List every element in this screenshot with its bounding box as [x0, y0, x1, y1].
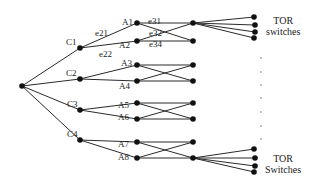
label-a5: A5 [118, 101, 129, 110]
label-a7: A7 [118, 140, 129, 149]
edge-node-1 [190, 20, 196, 26]
ellipsis-dot [260, 71, 261, 72]
core-node-c2 [77, 76, 83, 82]
tor-switch-bottom-2 [252, 155, 258, 161]
label-a2: A2 [119, 41, 130, 50]
tor-switch-top-2 [252, 22, 258, 28]
nodes [19, 14, 258, 175]
tor-switches-label-bottom: TOR Switches [265, 153, 301, 175]
edge-node-6 [190, 116, 196, 122]
edge-label-e32: e32 [149, 29, 162, 38]
edge-label-e34: e34 [149, 40, 162, 49]
label-a8: A8 [118, 153, 129, 162]
ellipsis-dot [260, 125, 261, 126]
core-node-c1 [77, 45, 83, 51]
agg-node-a2 [134, 38, 140, 44]
tor-switch-bottom-4 [251, 169, 257, 175]
link-tor-bottom [193, 149, 254, 158]
label-a3: A3 [121, 59, 132, 68]
agg-node-a3 [134, 62, 140, 68]
agg-node-a1 [134, 20, 140, 26]
edge-node-5 [190, 100, 196, 106]
edge-node-7 [190, 139, 196, 145]
ellipsis-dot [260, 57, 261, 58]
edge-node-8 [190, 155, 196, 161]
ellipsis-dot [260, 138, 261, 139]
edge-label-e21: e21 [95, 29, 108, 38]
tor-switch-top-3 [252, 29, 258, 35]
link-tor-top [193, 17, 254, 23]
agg-node-a6 [134, 116, 140, 122]
edge-label-e31: e31 [148, 17, 161, 26]
ellipsis-dot [260, 111, 261, 112]
tor-switch-top-1 [251, 14, 257, 20]
tor-switch-bottom-3 [252, 163, 258, 169]
label-c3: C3 [67, 100, 78, 109]
agg-node-a5 [134, 100, 140, 106]
label-c4: C4 [67, 130, 78, 139]
agg-node-a7 [134, 139, 140, 145]
label-c1: C1 [66, 38, 77, 47]
edge-node-4 [190, 78, 196, 84]
ellipsis-dot [260, 97, 261, 98]
label-a1: A1 [122, 18, 133, 27]
tor-top-line1: TOR [266, 15, 300, 26]
core-node-c4 [77, 137, 83, 143]
label-c2: C2 [66, 69, 77, 78]
tor-bottom-line1: TOR [265, 153, 301, 164]
tor-top-line2: switches [266, 26, 300, 37]
tor-switches-label-top: TOR switches [266, 15, 300, 37]
ellipsis-dots [260, 57, 261, 139]
edge-label-e22: e22 [99, 50, 112, 59]
core-node-c3 [77, 107, 83, 113]
tor-switch-bottom-1 [251, 146, 257, 152]
tor-bottom-line2: Switches [265, 164, 301, 175]
ellipsis-dot [260, 84, 261, 85]
label-a6: A6 [118, 113, 129, 122]
root-node [19, 83, 25, 89]
edge-node-2 [190, 38, 196, 44]
agg-node-a4 [134, 78, 140, 84]
tor-switch-top-4 [251, 35, 257, 41]
agg-node-a8 [134, 155, 140, 161]
label-a4: A4 [119, 82, 130, 91]
edge-node-3 [190, 62, 196, 68]
